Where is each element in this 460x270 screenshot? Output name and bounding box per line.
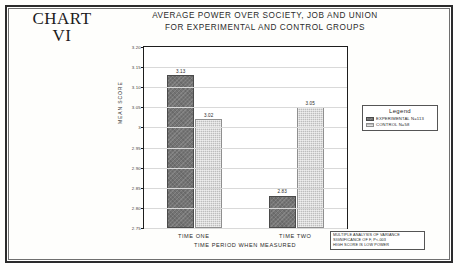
legend-label-control: CONTROL N=58 <box>376 122 409 127</box>
x-axis-category-label: TIME TWO <box>279 233 311 239</box>
legend-box: Legend EXPERIMENTAL N=113 CONTROL N=58 <box>362 105 438 131</box>
x-axis-title: TIME PERIOD WHEN MEASURED <box>194 242 296 248</box>
x-axis-category-label: TIME ONE <box>178 233 209 239</box>
legend-item-experimental: EXPERIMENTAL N=113 <box>366 116 434 121</box>
chart-page: CHART VI AVERAGE POWER OVER SOCIETY, JOB… <box>0 0 460 270</box>
legend-title: Legend <box>366 108 434 114</box>
legend-item-control: CONTROL N=58 <box>366 122 434 127</box>
footnote-box: MULTIPLE ANALYSIS OF VARIANCE SIGNIFICAN… <box>330 231 425 250</box>
legend-swatch-control <box>366 123 374 127</box>
legend-label-experimental: EXPERIMENTAL N=113 <box>376 116 424 121</box>
footnote-line3: HIGH SCORE IS LOW POWER <box>333 243 422 248</box>
axis-labels-layer: TIME ONETIME TWO <box>0 0 460 270</box>
legend-swatch-experimental <box>366 117 374 121</box>
